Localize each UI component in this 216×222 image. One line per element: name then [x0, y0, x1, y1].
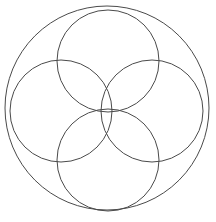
- figure-canvas: Overlapping circles rosette: [0, 0, 216, 222]
- rosette-diagram: Overlapping circles rosette: [0, 0, 216, 222]
- diagram-background: [0, 0, 216, 222]
